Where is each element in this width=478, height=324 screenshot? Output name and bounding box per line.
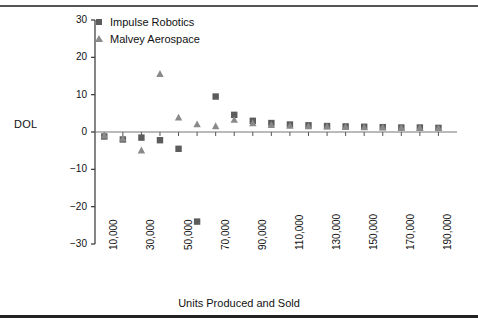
series-malvey-aerospace	[101, 70, 443, 153]
data-point-triangle	[138, 147, 145, 154]
y-tick-label: 30	[55, 15, 87, 25]
scatter-plot-canvas	[0, 0, 478, 324]
y-tick-label: −10	[55, 164, 87, 174]
data-point-triangle	[193, 120, 200, 127]
x-tick-label: 30,000	[146, 219, 156, 250]
data-point-square	[194, 218, 200, 224]
data-point-square	[175, 146, 181, 152]
data-point-square	[212, 93, 218, 99]
x-tick-label: 50,000	[184, 219, 194, 250]
legend-label: Impulse Robotics	[110, 16, 194, 28]
y-axis-title: DOL	[14, 118, 37, 130]
chart-figure: DOL Units Produced and Sold Impulse Robo…	[0, 0, 478, 324]
series-impulse-robotics	[101, 93, 442, 224]
x-axis-title: Units Produced and Sold	[0, 297, 478, 309]
data-point-triangle	[156, 70, 163, 77]
x-tick-label: 170,000	[406, 214, 416, 250]
y-tick-label: −20	[55, 202, 87, 212]
x-tick-label: 190,000	[443, 214, 453, 250]
x-tick-label: 70,000	[221, 219, 231, 250]
x-tick-label: 130,000	[332, 214, 342, 250]
x-tick-label: 150,000	[369, 214, 379, 250]
legend-item-impulse-robotics: Impulse Robotics	[93, 13, 200, 30]
chart-legend: Impulse Robotics Malvey Aerospace	[93, 13, 200, 47]
triangle-marker-icon	[93, 35, 105, 42]
legend-label: Malvey Aerospace	[110, 33, 200, 45]
y-tick-label: −30	[55, 239, 87, 249]
y-tick-label: 0	[55, 127, 87, 137]
y-tick-label: 10	[55, 90, 87, 100]
x-tick-label: 90,000	[258, 219, 268, 250]
square-marker-icon	[93, 19, 105, 25]
y-tick-label: 20	[55, 52, 87, 62]
data-point-triangle	[175, 114, 182, 121]
data-point-triangle	[212, 122, 219, 129]
legend-item-malvey-aerospace: Malvey Aerospace	[93, 30, 200, 47]
data-point-square	[138, 134, 144, 140]
x-tick-label: 110,000	[295, 215, 305, 250]
data-point-square	[157, 137, 163, 143]
x-tick-label: 10,000	[109, 219, 119, 250]
